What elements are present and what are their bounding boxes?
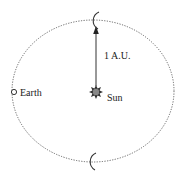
earth-label: Earth — [20, 87, 42, 98]
distance-arrow — [93, 26, 99, 86]
distance-label: 1 A.U. — [104, 50, 130, 61]
sun-label: Sun — [107, 92, 123, 103]
orbit-diagram: Earth Sun 1 A.U. — [0, 0, 180, 180]
crescent-moon-icon — [90, 153, 96, 170]
sun-icon — [89, 85, 103, 99]
earth-icon — [11, 89, 16, 94]
